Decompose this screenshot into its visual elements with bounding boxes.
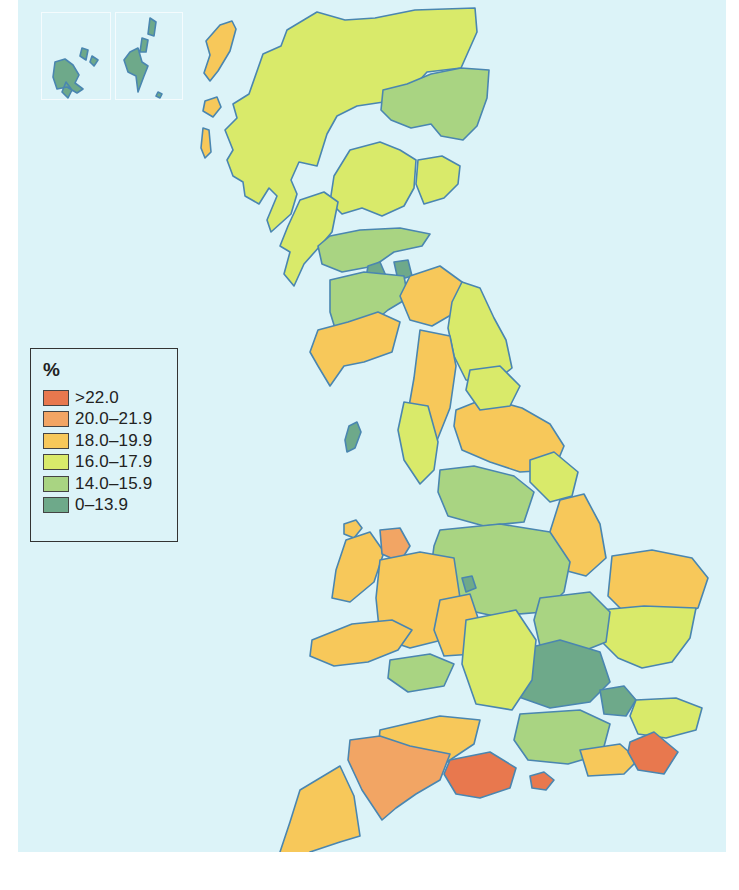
greater-london — [600, 686, 636, 716]
legend-item: >22.0 — [43, 387, 177, 409]
cornwall — [280, 766, 360, 852]
dorset — [444, 752, 516, 798]
legend-item: 14.0–15.9 — [43, 473, 177, 495]
east-yorkshire — [530, 452, 578, 502]
legend-item: 16.0–17.9 — [43, 452, 177, 474]
legend-swatch — [43, 454, 69, 470]
legend-label: 20.0–21.9 — [75, 409, 152, 429]
legend-item: 0–13.9 — [43, 495, 177, 517]
perth-kinross — [330, 142, 416, 216]
legend-item: 20.0–21.9 — [43, 409, 177, 431]
kent — [630, 698, 702, 738]
dumfries-galloway — [310, 312, 400, 386]
suffolk-essex — [598, 606, 696, 668]
shetland-inset-box — [115, 12, 183, 100]
west-south-yorkshire — [438, 466, 534, 526]
south-wales-valleys — [388, 654, 454, 692]
angus-fife — [416, 156, 460, 204]
legend: % >22.0 20.0–21.9 18.0–19.9 16.0–17.9 14… — [30, 348, 178, 542]
map-area: % >22.0 20.0–21.9 18.0–19.9 16.0–17.9 14… — [18, 0, 726, 852]
east-sussex — [628, 732, 678, 774]
isle-of-wight — [530, 772, 554, 790]
orkney-inset-box — [41, 12, 111, 100]
legend-label: 14.0–15.9 — [75, 474, 152, 494]
legend-title: % — [43, 359, 177, 381]
legend-item: 18.0–19.9 — [43, 430, 177, 452]
isle-of-man — [345, 422, 361, 452]
legend-swatch — [43, 433, 69, 449]
legend-label: 16.0–17.9 — [75, 452, 152, 472]
legend-label: 18.0–19.9 — [75, 431, 152, 451]
legend-label: >22.0 — [75, 388, 119, 408]
legend-swatch — [43, 476, 69, 492]
legend-swatch — [43, 497, 69, 513]
legend-swatch — [43, 390, 69, 406]
legend-swatch — [43, 411, 69, 427]
legend-label: 0–13.9 — [75, 495, 128, 515]
